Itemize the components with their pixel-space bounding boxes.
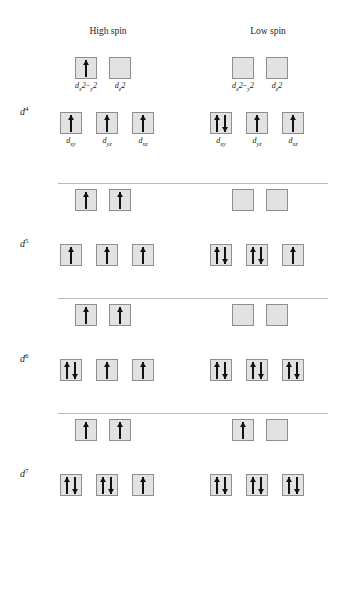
orbital-cell (282, 474, 304, 496)
orbital-box (96, 244, 118, 266)
electron-arrows (283, 475, 303, 495)
orbital-cell: dxz (282, 112, 304, 147)
electron-count-label-d4: d4 (20, 105, 29, 117)
electron-arrows (247, 113, 267, 133)
orbital-cell (109, 419, 131, 441)
high-spin-eg-set (75, 304, 131, 326)
spin-down-arrow (222, 247, 229, 264)
row-divider (58, 298, 328, 299)
orbital-cell (75, 419, 97, 441)
spin-up-arrow (214, 362, 221, 379)
spin-up-arrow (140, 115, 147, 132)
spin-up-arrow (214, 477, 221, 494)
orbital-box (60, 359, 82, 381)
spin-up-arrow (140, 362, 147, 379)
orbital-cell: dz2 (109, 57, 131, 92)
low-spin-eg-set: dx2−y2dz2 (232, 57, 288, 92)
electron-arrows (110, 190, 130, 210)
low-spin-eg-set (232, 419, 288, 441)
electron-arrows (61, 360, 81, 380)
orbital-label: dz2 (115, 82, 125, 92)
electron-arrows (97, 245, 117, 265)
orbital-cell (266, 189, 288, 211)
high-spin-t2g-set (60, 474, 154, 496)
orbital-cell (266, 419, 288, 441)
orbital-label: dxy (66, 137, 75, 147)
electron-arrows (110, 420, 130, 440)
spin-up-arrow (290, 247, 297, 264)
spin-up-arrow (250, 247, 257, 264)
orbital-box (210, 359, 232, 381)
orbital-box (232, 189, 254, 211)
spin-up-arrow (68, 115, 75, 132)
orbital-label: dxy (216, 137, 225, 147)
electron-arrows (61, 113, 81, 133)
electron-arrows (211, 360, 231, 380)
orbital-cell (96, 474, 118, 496)
orbital-box (282, 112, 304, 134)
orbital-cell (282, 359, 304, 381)
orbital-cell (132, 244, 154, 266)
spin-up-arrow (68, 247, 75, 264)
orbital-cell (109, 304, 131, 326)
orbital-box (232, 57, 254, 79)
electron-arrows (61, 475, 81, 495)
orbital-cell (232, 419, 254, 441)
orbital-box (75, 57, 97, 79)
spin-up-arrow (83, 60, 90, 77)
high-spin-eg-set: dx2−y2dz2 (75, 57, 131, 92)
orbital-box (132, 244, 154, 266)
orbital-box (210, 474, 232, 496)
orbital-box (266, 189, 288, 211)
spin-down-arrow (294, 477, 301, 494)
spin-up-arrow (104, 247, 111, 264)
crystal-field-diagram: High spin Low spin d4dx2−y2dz2dxydyzdxzd… (0, 0, 346, 589)
orbital-box (210, 112, 232, 134)
orbital-box (109, 57, 131, 79)
spin-up-arrow (254, 115, 261, 132)
electron-arrows (247, 475, 267, 495)
orbital-box (60, 244, 82, 266)
electron-arrows (97, 113, 117, 133)
orbital-box (96, 359, 118, 381)
electron-arrows (133, 245, 153, 265)
electron-arrows (110, 305, 130, 325)
high-spin-eg-set (75, 419, 131, 441)
spin-up-arrow (240, 422, 247, 439)
orbital-cell: dyz (246, 112, 268, 147)
spin-up-arrow (64, 362, 71, 379)
orbital-cell: dxy (210, 112, 232, 147)
high-spin-t2g-set (60, 244, 154, 266)
electron-arrows (283, 360, 303, 380)
spin-down-arrow (108, 477, 115, 494)
orbital-box (246, 474, 268, 496)
orbital-label: dyz (103, 137, 112, 147)
electron-arrows (76, 420, 96, 440)
orbital-label: dxz (139, 137, 148, 147)
orbital-cell (60, 244, 82, 266)
spin-up-arrow (214, 247, 221, 264)
orbital-box (210, 244, 232, 266)
spin-up-arrow (250, 477, 257, 494)
orbital-cell: dyz (96, 112, 118, 147)
orbital-cell: dz2 (266, 57, 288, 92)
orbital-box (246, 359, 268, 381)
orbital-box (282, 359, 304, 381)
electron-arrows (76, 190, 96, 210)
electron-arrows (211, 113, 231, 133)
orbital-cell (210, 359, 232, 381)
high-spin-eg-set (75, 189, 131, 211)
electron-arrows (283, 113, 303, 133)
spin-down-arrow (258, 362, 265, 379)
orbital-cell (246, 474, 268, 496)
orbital-label: dyz (253, 137, 262, 147)
electron-count-label-d5: d5 (20, 237, 29, 249)
orbital-cell (210, 244, 232, 266)
spin-up-arrow (140, 247, 147, 264)
orbital-box (282, 244, 304, 266)
electron-arrows (97, 475, 117, 495)
orbital-box (75, 304, 97, 326)
orbital-box (109, 189, 131, 211)
orbital-cell (232, 304, 254, 326)
electron-arrows (133, 360, 153, 380)
